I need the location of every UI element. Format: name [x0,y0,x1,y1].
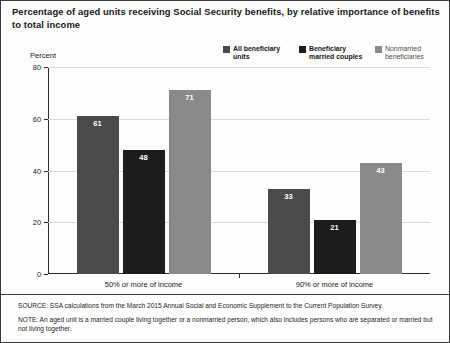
y-tick-mark [44,274,48,275]
bar: 43 [360,163,402,274]
x-axis-divider-tick [239,274,240,278]
footnotes: SOURCE: SSA calculations from the March … [1,294,449,342]
y-tick-label: 80 [33,63,41,72]
bar: 21 [314,220,356,274]
legend-swatch-all-beneficiary-units [223,46,230,53]
legend-swatch-nonmarried-beneficiaries [375,46,382,53]
y-tick-mark [44,119,48,120]
bar: 61 [77,116,119,274]
bar-value-label: 43 [360,166,402,175]
bar: 33 [268,189,310,274]
chart-title: Percentage of aged units receiving Socia… [12,6,440,31]
y-tick-mark [44,222,48,223]
bar-value-label: 33 [268,192,310,201]
plot-area: 020406080 614871332143 50% or more of in… [48,67,430,274]
gridline [48,67,430,68]
bar: 71 [169,90,211,274]
legend-item-nonmarried-beneficiaries: Nonmarried beneficiaries [375,45,445,62]
x-category-label: 50% or more of income [105,280,183,289]
legend-label-beneficiary-married-couples: Beneficiary married couples [309,45,362,62]
chart-figure: Percentage of aged units receiving Socia… [0,0,450,343]
bar-value-label: 61 [77,119,119,128]
y-tick-label: 60 [33,114,41,123]
y-tick-label: 20 [33,218,41,227]
bar-value-label: 71 [169,93,211,102]
source-note: SOURCE: SSA calculations from the March … [18,301,435,311]
chart-legend: All beneficiary units Beneficiary marrie… [223,45,445,62]
legend-label-all-beneficiary-units: All beneficiary units [233,45,280,62]
y-axis-caption: Percent [30,51,56,60]
bar: 48 [123,150,165,274]
y-tick-label: 0 [37,270,41,279]
bar-value-label: 48 [123,153,165,162]
y-tick-mark [44,171,48,172]
legend-item-beneficiary-married-couples: Beneficiary married couples [299,45,369,62]
y-tick-label: 40 [33,166,41,175]
definition-note: NOTE: An aged unit is a married couple l… [18,315,435,334]
y-tick-mark [44,67,48,68]
legend-swatch-beneficiary-married-couples [299,46,306,53]
x-category-label: 90% or more of income [296,280,374,289]
bar-value-label: 21 [314,223,356,232]
legend-item-all-beneficiary-units: All beneficiary units [223,45,293,62]
legend-label-nonmarried-beneficiaries: Nonmarried beneficiaries [385,45,424,62]
